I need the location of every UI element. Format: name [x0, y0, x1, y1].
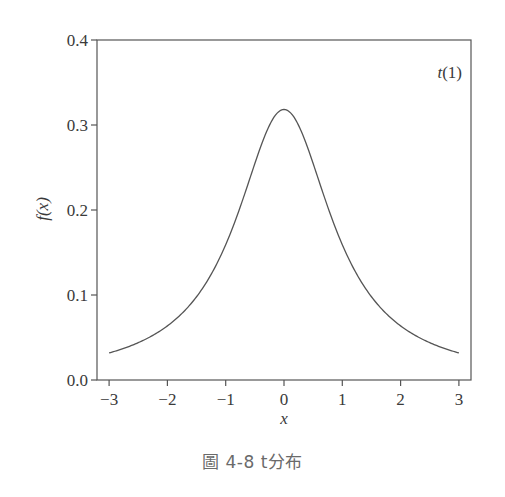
- x-tick-label: 3: [455, 390, 464, 409]
- y-axis-label: f(x): [33, 197, 52, 221]
- y-tick-label: 0.1: [67, 286, 88, 305]
- plot-frame: [97, 40, 471, 380]
- x-tick-label: −3: [100, 390, 118, 409]
- x-tick-label: 0: [280, 390, 289, 409]
- figure-caption: 圖 4-8 t分布: [0, 448, 505, 473]
- y-axis-ticks: 0.00.10.20.30.4: [67, 31, 97, 390]
- y-tick-label: 0.3: [67, 116, 88, 135]
- x-axis-label: x: [279, 409, 288, 428]
- x-tick-label: −2: [158, 390, 176, 409]
- y-tick-label: 0.0: [67, 371, 88, 390]
- y-tick-label: 0.2: [67, 201, 88, 220]
- series-annotation: t(1): [437, 63, 462, 82]
- x-tick-label: 2: [396, 390, 405, 409]
- x-tick-label: −1: [217, 390, 235, 409]
- x-tick-label: 1: [338, 390, 347, 409]
- x-axis-ticks: −3−2−10123: [100, 380, 463, 409]
- density-curve: [109, 109, 459, 353]
- y-tick-label: 0.4: [67, 31, 89, 50]
- t-distribution-chart: 0.00.10.20.30.4 −3−2−10123 t(1) x f(x): [0, 0, 505, 497]
